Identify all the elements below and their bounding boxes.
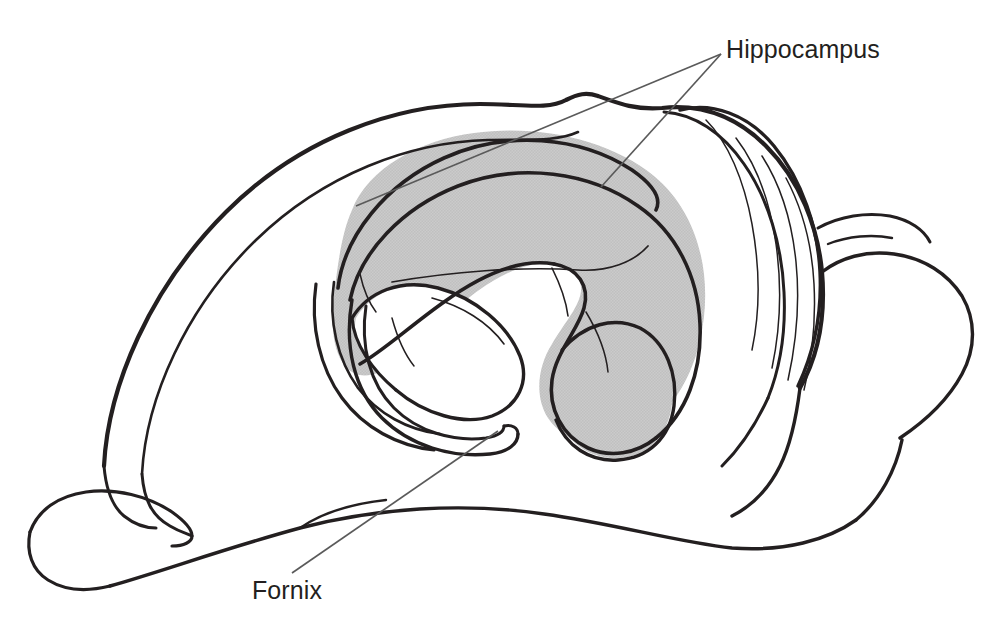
anatomical-figure: Hippocampus Fornix	[0, 0, 988, 637]
frontal-pole-junction	[104, 466, 156, 528]
olfactory-bulb-ventral-edge	[29, 532, 110, 589]
cerebellum-ventral-margin	[722, 398, 768, 466]
brainstem-inner-edge	[828, 236, 892, 244]
fornix-tip-hook	[504, 425, 518, 434]
hippocampus-shading-group	[333, 131, 706, 459]
hippocampus-leader-line-2	[601, 54, 721, 187]
brain-diagram-svg: Hippocampus Fornix	[0, 0, 988, 637]
ventral-posterior-outline	[856, 440, 902, 520]
ventral-surface-outline	[110, 508, 856, 586]
cerebellum-folium-2	[736, 138, 779, 368]
caudal-cortex-outline	[732, 388, 800, 516]
fornix-leader-line	[292, 431, 498, 573]
brainstem-rostral-shelf	[818, 215, 930, 243]
label-hippocampus: Hippocampus	[726, 35, 880, 63]
brainstem-dorsal-outline	[822, 253, 973, 438]
cerebellum-folium-1	[706, 120, 758, 350]
cerebellum-folium-4	[786, 178, 815, 390]
label-fornix: Fornix	[252, 576, 322, 604]
hippocampus-tail-notch	[552, 268, 568, 316]
